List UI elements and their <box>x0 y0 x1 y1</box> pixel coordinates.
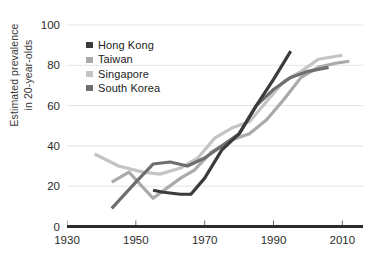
y-axis-tick-label: 40 <box>34 140 60 152</box>
x-axis-tick-marks <box>67 221 342 226</box>
chart-legend: Hong KongTaiwanSingaporeSouth Korea <box>86 38 160 96</box>
x-axis-tick-label: 2010 <box>319 234 365 246</box>
legend-item[interactable]: Taiwan <box>86 52 160 66</box>
y-axis-title-line2: in 20-year-olds <box>22 0 36 170</box>
legend-item[interactable]: Singapore <box>86 67 160 81</box>
y-axis-tick-labels: 020406080100 <box>34 0 60 268</box>
y-axis-tick-label: 20 <box>34 180 60 192</box>
legend-item-label: South Korea <box>98 81 160 95</box>
chart-figure: Estimated prevalence in 20-year-olds 020… <box>0 0 373 268</box>
legend-item[interactable]: South Korea <box>86 81 160 95</box>
legend-item-label: Hong Kong <box>98 38 154 52</box>
legend-swatch-icon <box>86 85 93 91</box>
y-axis-tick-label: 60 <box>34 100 60 112</box>
legend-swatch-icon <box>86 57 93 63</box>
y-axis-tick-label: 80 <box>34 59 60 71</box>
legend-item-label: Singapore <box>98 67 149 81</box>
series-line-hong-kong <box>153 51 291 194</box>
legend-swatch-icon <box>86 71 93 77</box>
legend-item[interactable]: Hong Kong <box>86 38 160 52</box>
x-axis-tick-label: 1930 <box>44 234 90 246</box>
y-axis-tick-label: 100 <box>34 19 60 31</box>
legend-swatch-icon <box>86 42 93 48</box>
legend-item-label: Taiwan <box>98 52 133 66</box>
x-axis-tick-label: 1950 <box>113 234 159 246</box>
y-axis-tick-label: 0 <box>34 221 60 233</box>
x-axis-tick-label: 1990 <box>251 234 297 246</box>
y-axis-title-line1: Estimated prevalence <box>8 0 22 170</box>
x-axis-tick-label: 1970 <box>182 234 228 246</box>
